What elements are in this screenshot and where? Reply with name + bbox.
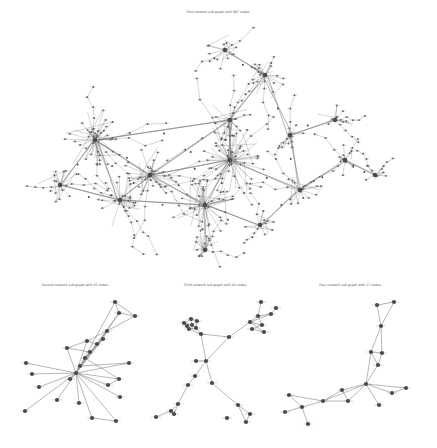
graph-node [300, 405, 304, 409]
graph-node [404, 386, 408, 390]
graph-node [346, 399, 350, 403]
graph-node [283, 410, 287, 414]
graph-node [392, 300, 396, 304]
graph-node [379, 324, 383, 328]
graph-node [364, 382, 368, 386]
graph-node [375, 303, 379, 307]
graph-node [380, 351, 384, 355]
graph-node [376, 363, 380, 367]
graph-node [306, 422, 310, 426]
graph-node [377, 403, 381, 407]
graph-node [287, 393, 291, 397]
graph-node [340, 388, 344, 392]
subgraph-4-network [0, 0, 437, 448]
graph-node [321, 399, 325, 403]
graph-node [390, 391, 394, 395]
graph-node [369, 350, 373, 354]
